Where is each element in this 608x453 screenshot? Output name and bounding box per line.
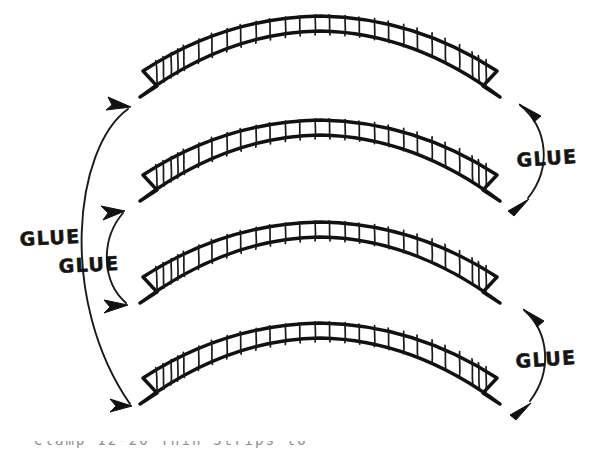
glue-label-right-upper: GLUE (516, 145, 578, 171)
glue-label-left-inner: GLUE (58, 252, 120, 277)
glue-label-right-lower: GLUE (515, 346, 577, 372)
glue-arc-left-outer-arrowhead-top (106, 97, 131, 110)
glue-arc-right-lower: GLUE (510, 309, 577, 420)
arch-glue-diagram: GLUE GLUE GLUE GLUE (0, 0, 608, 453)
glue-arc-left-inner-arrowhead-top (101, 206, 125, 220)
arch-segment-second (140, 119, 500, 201)
arch-segment-third (140, 221, 500, 303)
glue-arc-right-upper-arrowhead-top (519, 104, 541, 122)
glue-arc-right-upper-arrowhead-bottom (508, 199, 529, 216)
glue-label-left-outer: GLUE (19, 225, 81, 250)
figure-root: GLUE GLUE GLUE GLUE Clamp 12-20 Thin Str… (0, 0, 608, 453)
arch-segment-bottom (140, 322, 500, 404)
glue-arc-left-inner: GLUE (58, 206, 128, 313)
glue-arc-right-upper: GLUE (508, 104, 578, 216)
arch-segment-top (140, 15, 500, 97)
glue-arc-right-lower-arrowhead-top (523, 309, 544, 327)
glue-arc-right-lower-arrowhead-bottom (510, 403, 531, 420)
